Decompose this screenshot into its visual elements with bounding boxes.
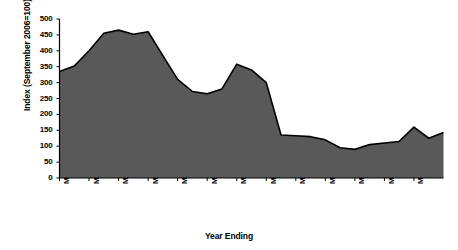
area-chart: Index (September 2006=100) 0501001502002…: [0, 0, 458, 250]
plot-area: [0, 0, 458, 250]
area-series-fill: [60, 30, 444, 178]
x-axis-title: Year Ending: [0, 231, 458, 241]
